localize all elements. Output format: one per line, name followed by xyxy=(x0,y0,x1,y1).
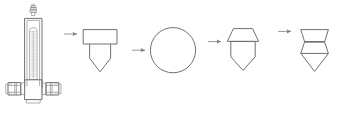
flowmeter-right-union-fitting xyxy=(42,83,61,95)
arrow-1 xyxy=(64,32,77,36)
stage-1-rotameter-flow-meter xyxy=(6,4,61,103)
flowmeter-sight-glass-scale xyxy=(30,28,37,80)
arrow-3 xyxy=(208,40,221,44)
flowmeter-top-valve xyxy=(30,4,37,16)
diagram-svg xyxy=(0,0,337,117)
diagram-canvas xyxy=(0,0,337,117)
arrow-2 xyxy=(132,48,145,52)
flowmeter-left-union-fitting xyxy=(6,83,25,95)
stage-4-trapezoid-with-pointed-base xyxy=(227,29,258,71)
stage-3-circle xyxy=(150,28,195,73)
stage-2-rectangle-with-pointed-base xyxy=(83,30,117,72)
stage-5-hourglass-with-pointed-base xyxy=(301,30,329,72)
arrow-4 xyxy=(278,29,291,33)
